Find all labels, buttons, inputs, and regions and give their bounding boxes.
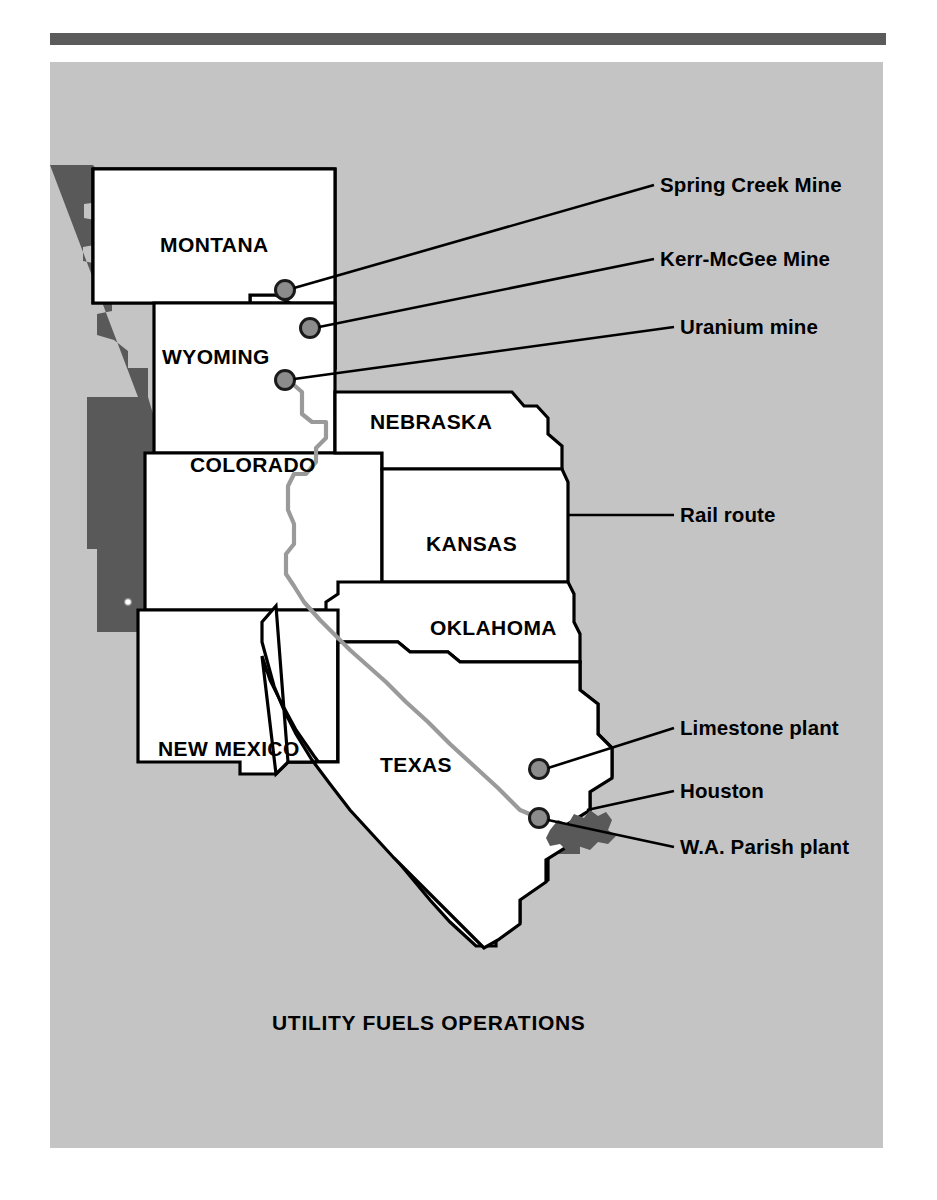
callout-label-limestone-plant: Limestone plant bbox=[680, 716, 839, 739]
map-figure-panel: MONTANA WYOMING NEBRASKA COLORADO KANSAS… bbox=[50, 62, 883, 1148]
state-label-texas: TEXAS bbox=[380, 753, 452, 776]
callout-label-uranium-mine: Uranium mine bbox=[680, 315, 818, 338]
state-label-colorado: COLORADO bbox=[190, 453, 316, 476]
callout-label-wa-parish-plant: W.A. Parish plant bbox=[680, 835, 849, 858]
state-label-montana: MONTANA bbox=[160, 233, 269, 256]
marker-spring-creek-mine[interactable] bbox=[276, 281, 295, 300]
marker-uranium-mine[interactable] bbox=[276, 371, 295, 390]
marker-kerr-mcgee-mine[interactable] bbox=[301, 319, 320, 338]
state-label-wyoming: WYOMING bbox=[162, 345, 270, 368]
map-title: UTILITY FUELS OPERATIONS bbox=[272, 1011, 586, 1034]
state-label-new-mexico: NEW MEXICO bbox=[158, 737, 300, 760]
top-rule-bar bbox=[50, 33, 886, 45]
callout-label-spring-creek-mine: Spring Creek Mine bbox=[660, 173, 842, 196]
figure-page: MONTANA WYOMING NEBRASKA COLORADO KANSAS… bbox=[0, 0, 937, 1200]
figure-caption-row: FIGURE 14.14 bbox=[0, 1160, 937, 1200]
marker-limestone-plant[interactable] bbox=[530, 760, 549, 779]
utility-fuels-map: MONTANA WYOMING NEBRASKA COLORADO KANSAS… bbox=[50, 62, 883, 1148]
callout-label-houston: Houston bbox=[680, 779, 764, 802]
state-label-oklahoma: OKLAHOMA bbox=[430, 616, 557, 639]
state-label-nebraska: NEBRASKA bbox=[370, 410, 492, 433]
marker-wa-parish-plant[interactable] bbox=[530, 809, 549, 828]
state-label-kansas: KANSAS bbox=[426, 532, 517, 555]
callout-label-rail-route: Rail route bbox=[680, 503, 776, 526]
callout-label-kerr-mcgee-mine: Kerr-McGee Mine bbox=[660, 247, 830, 270]
shadow-inset-dot bbox=[125, 599, 132, 606]
kansas-poly[interactable] bbox=[382, 469, 568, 582]
